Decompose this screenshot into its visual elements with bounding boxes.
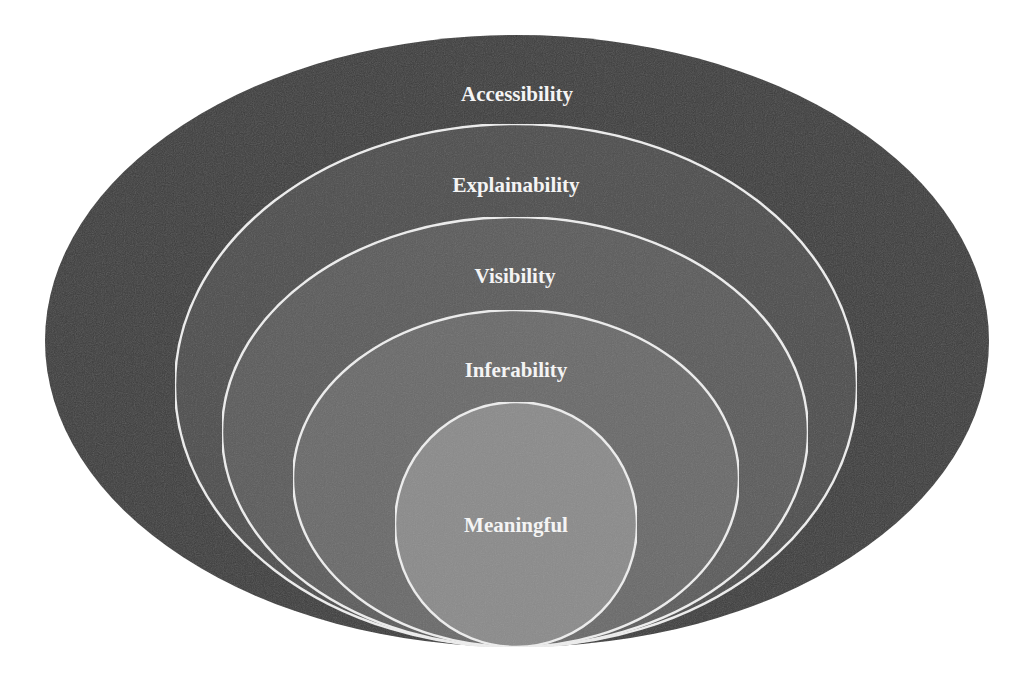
label-accessibility: Accessibility (461, 82, 573, 106)
label-explainability: Explainability (452, 173, 580, 197)
label-inferability: Inferability (465, 358, 568, 382)
label-visibility: Visibility (475, 264, 556, 288)
layer-meaningful: Meaningful (395, 402, 637, 647)
nested-ellipse-diagram: Accessibility Explainability Visibility … (0, 0, 1034, 675)
label-meaningful: Meaningful (464, 513, 568, 537)
